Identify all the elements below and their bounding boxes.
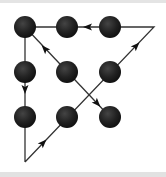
bottom-border <box>0 172 166 177</box>
dot-r1c3 <box>99 16 121 38</box>
dot-r2c3 <box>99 61 121 83</box>
dot-r2c1 <box>14 61 36 83</box>
diagram-frame <box>0 0 166 177</box>
dot-r2c2 <box>56 61 78 83</box>
nine-dots-diagram <box>0 0 166 177</box>
dot-r3c2 <box>56 106 78 128</box>
dot-grid <box>14 16 121 128</box>
dot-r3c1 <box>14 106 36 128</box>
dot-r3c3 <box>99 106 121 128</box>
dot-r1c1 <box>14 16 36 38</box>
dot-r1c2 <box>56 16 78 38</box>
